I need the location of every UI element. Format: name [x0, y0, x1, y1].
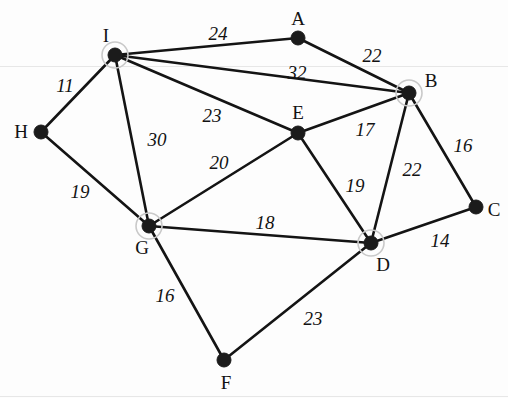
- edge-d-c: [371, 207, 476, 243]
- graph-canvas: [0, 0, 508, 398]
- node-f[interactable]: [217, 353, 231, 367]
- node-c[interactable]: [469, 200, 483, 214]
- edge-g-f: [149, 226, 224, 360]
- edge-e-d: [298, 133, 371, 243]
- edge-b-c: [409, 93, 476, 207]
- node-g[interactable]: [142, 219, 156, 233]
- edge-i-h: [41, 55, 115, 132]
- edge-e-b: [298, 93, 409, 133]
- node-a[interactable]: [291, 31, 305, 45]
- node-e[interactable]: [291, 126, 305, 140]
- graph-figure: 24223211233019201716221918141623ABCDEFGH…: [0, 0, 508, 398]
- edge-g-d: [149, 226, 371, 243]
- edge-i-a: [115, 38, 298, 55]
- node-d[interactable]: [364, 236, 378, 250]
- nodes-layer: [34, 31, 483, 367]
- node-i[interactable]: [108, 48, 122, 62]
- edge-g-e: [149, 133, 298, 226]
- edge-b-d: [371, 93, 409, 243]
- edge-f-d: [224, 243, 371, 360]
- node-b[interactable]: [402, 86, 416, 100]
- node-h[interactable]: [34, 125, 48, 139]
